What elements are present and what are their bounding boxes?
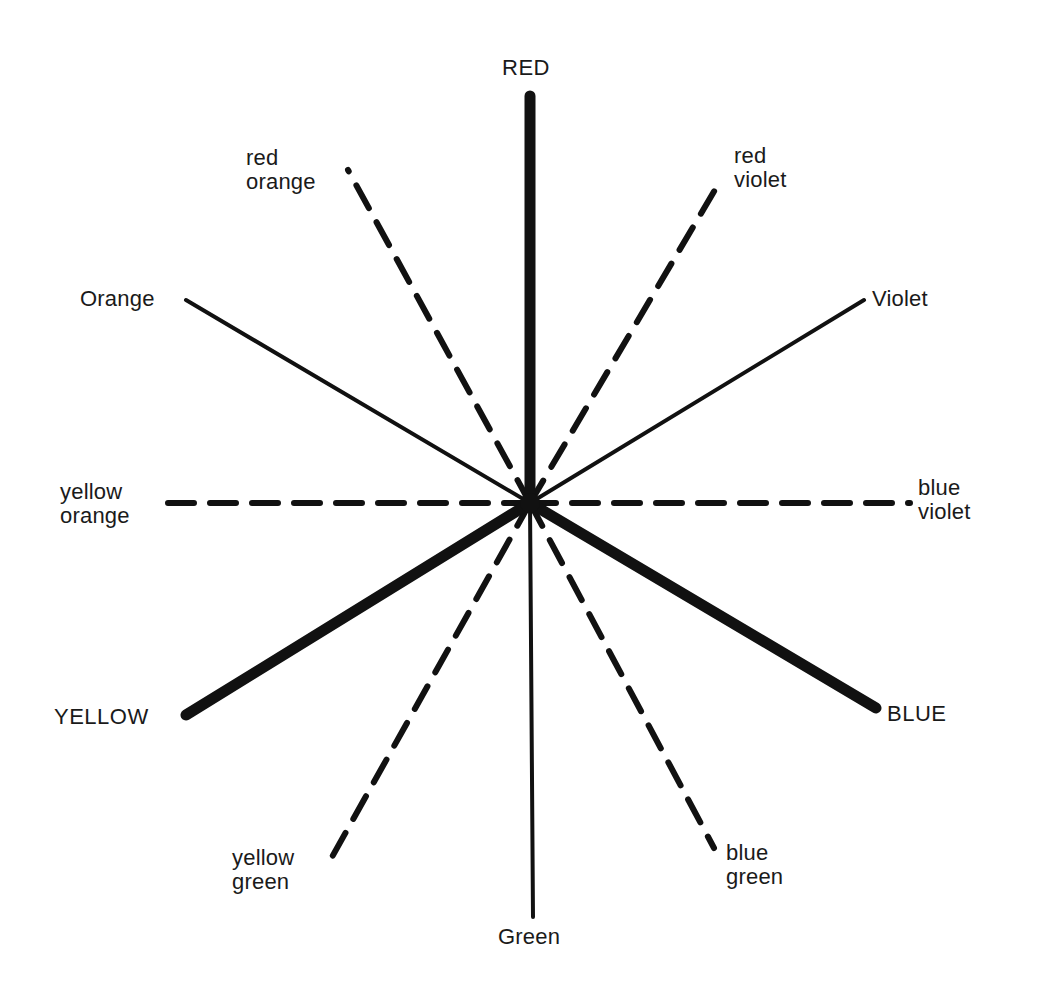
- label-green-text: Green: [498, 925, 560, 949]
- label-violet: Violet: [872, 287, 928, 311]
- label-yellow-green-line-1: yellow: [232, 846, 294, 870]
- label-blue-green-line-1: blue: [726, 841, 783, 865]
- spoke-yellow-green: [332, 503, 530, 857]
- label-blue-violet: blue violet: [918, 476, 971, 524]
- label-blue-green-line-2: green: [726, 865, 783, 889]
- label-orange: Orange: [80, 287, 155, 311]
- label-blue: BLUE: [887, 702, 946, 726]
- label-blue-green: blue green: [726, 841, 783, 889]
- label-yellow-orange: yellow orange: [60, 480, 130, 528]
- label-red-violet-line-1: red: [734, 144, 787, 168]
- label-blue-text: BLUE: [887, 702, 946, 726]
- color-wheel-diagram: [0, 0, 1042, 1005]
- spoke-orange: [186, 300, 530, 503]
- label-yellow: YELLOW: [54, 705, 149, 729]
- center-hub: [520, 493, 540, 513]
- label-red-orange: red orange: [246, 146, 316, 194]
- label-orange-text: Orange: [80, 287, 155, 311]
- label-blue-violet-line-1: blue: [918, 476, 971, 500]
- label-red: RED: [502, 56, 550, 80]
- label-yellow-green: yellow green: [232, 846, 294, 894]
- spoke-blue: [530, 503, 876, 708]
- spoke-violet: [530, 300, 864, 503]
- label-red-orange-line-1: red: [246, 146, 316, 170]
- label-blue-violet-line-2: violet: [918, 500, 971, 524]
- spoke-green: [530, 503, 533, 917]
- spoke-red-violet: [530, 178, 722, 503]
- label-red-orange-line-2: orange: [246, 170, 316, 194]
- spoke-red-orange: [348, 170, 530, 503]
- label-yellow-text: YELLOW: [54, 705, 149, 729]
- label-yellow-green-line-2: green: [232, 870, 294, 894]
- label-yellow-orange-line-1: yellow: [60, 480, 130, 504]
- label-red-violet: red violet: [734, 144, 787, 192]
- label-red-text: RED: [502, 56, 550, 80]
- spoke-yellow: [186, 503, 530, 715]
- label-green: Green: [498, 925, 560, 949]
- label-red-violet-line-2: violet: [734, 168, 787, 192]
- label-yellow-orange-line-2: orange: [60, 504, 130, 528]
- label-violet-text: Violet: [872, 287, 928, 311]
